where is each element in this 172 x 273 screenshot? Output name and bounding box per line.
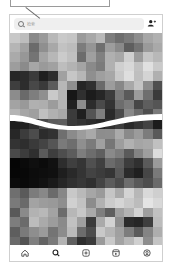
explore-grid-top[interactable] xyxy=(10,33,162,119)
mosaic-cell xyxy=(96,90,106,100)
mosaic-cell xyxy=(134,139,144,149)
mosaic-cell xyxy=(134,168,144,178)
mosaic-cell xyxy=(153,198,163,208)
mosaic-cell xyxy=(39,81,49,91)
mosaic-cell xyxy=(10,62,20,72)
mosaic-cell xyxy=(105,198,115,208)
mosaic-cell xyxy=(48,188,58,198)
mosaic-cell xyxy=(115,43,125,53)
explore-grid-bottom[interactable] xyxy=(10,119,162,247)
mosaic-cell xyxy=(48,33,58,43)
mosaic-cell xyxy=(48,81,58,91)
mosaic-cell xyxy=(124,149,134,159)
mosaic-cell xyxy=(143,198,153,208)
mosaic-cell xyxy=(124,168,134,178)
mosaic-cell xyxy=(134,178,144,188)
mosaic-cell xyxy=(10,52,20,62)
mosaic-cell xyxy=(86,71,96,81)
mosaic-cell xyxy=(39,198,49,208)
mosaic-cell xyxy=(105,188,115,198)
mosaic-cell xyxy=(105,33,115,43)
mosaic-cell xyxy=(153,71,163,81)
mosaic-cell xyxy=(86,208,96,218)
mosaic-cell xyxy=(48,71,58,81)
mosaic-cell xyxy=(115,71,125,81)
mosaic-cell xyxy=(58,81,68,91)
mosaic-cell xyxy=(153,52,163,62)
mosaic-cell xyxy=(29,208,39,218)
nav-search[interactable] xyxy=(51,248,61,258)
mosaic-cell xyxy=(20,149,30,159)
mosaic-cell xyxy=(48,198,58,208)
mosaic-cell xyxy=(20,33,30,43)
mosaic-cell xyxy=(143,168,153,178)
mosaic-cell xyxy=(39,62,49,72)
mosaic-cell xyxy=(20,158,30,168)
mosaic-cell xyxy=(115,100,125,110)
nav-profile[interactable] xyxy=(142,248,152,258)
mosaic-cell xyxy=(48,227,58,237)
mosaic-cell xyxy=(124,217,134,227)
mosaic-cell xyxy=(115,149,125,159)
mosaic-cell xyxy=(143,139,153,149)
mosaic-cell xyxy=(134,62,144,72)
mosaic-cell xyxy=(77,217,87,227)
mosaic-cell xyxy=(10,158,20,168)
reels-icon xyxy=(112,249,120,257)
mosaic-cell xyxy=(96,81,106,91)
mosaic-cell xyxy=(86,129,96,139)
mosaic-cell xyxy=(48,168,58,178)
mosaic-cell xyxy=(153,227,163,237)
mosaic-cell xyxy=(67,71,77,81)
mosaic-cell xyxy=(134,71,144,81)
nav-home[interactable] xyxy=(20,248,30,258)
mosaic-cell xyxy=(58,33,68,43)
mosaic-cell xyxy=(153,178,163,188)
mosaic-cell xyxy=(96,43,106,53)
search-input[interactable]: 检索 xyxy=(14,18,144,30)
mosaic-cell xyxy=(105,81,115,91)
mosaic-cell xyxy=(10,178,20,188)
search-icon xyxy=(52,249,60,257)
annotation-callout xyxy=(10,0,110,7)
mosaic-cell xyxy=(86,188,96,198)
mosaic-cell xyxy=(58,52,68,62)
mosaic-cell xyxy=(39,90,49,100)
nav-create[interactable] xyxy=(81,248,91,258)
mosaic-cell xyxy=(10,208,20,218)
mosaic-cell xyxy=(10,129,20,139)
mosaic-cell xyxy=(77,81,87,91)
mosaic-cell xyxy=(48,62,58,72)
mosaic-cell xyxy=(124,81,134,91)
mosaic-cell xyxy=(48,100,58,110)
mosaic-cell xyxy=(134,227,144,237)
add-user-icon[interactable] xyxy=(147,19,156,28)
mosaic-cell xyxy=(86,90,96,100)
mosaic-cell xyxy=(67,217,77,227)
mosaic-cell xyxy=(153,217,163,227)
mosaic-cell xyxy=(96,188,106,198)
mosaic-cell xyxy=(67,43,77,53)
mosaic-cell xyxy=(105,62,115,72)
mosaic-cell xyxy=(86,139,96,149)
nav-reels[interactable] xyxy=(111,248,121,258)
mosaic-cell xyxy=(115,208,125,218)
mosaic-cell xyxy=(67,81,77,91)
mosaic-cell xyxy=(67,149,77,159)
mosaic-cell xyxy=(105,90,115,100)
mosaic-cell xyxy=(39,149,49,159)
mosaic-cell xyxy=(67,100,77,110)
mosaic-cell xyxy=(124,43,134,53)
mosaic-cell xyxy=(153,81,163,91)
mosaic-cell xyxy=(39,188,49,198)
mosaic-cell xyxy=(86,217,96,227)
mosaic-cell xyxy=(96,168,106,178)
mosaic-cell xyxy=(105,139,115,149)
mosaic-cell xyxy=(77,71,87,81)
mosaic-cell xyxy=(153,168,163,178)
mosaic-cell xyxy=(115,90,125,100)
mosaic-cell xyxy=(124,62,134,72)
mosaic-cell xyxy=(67,90,77,100)
mosaic-cell xyxy=(134,208,144,218)
mosaic-cell xyxy=(48,52,58,62)
